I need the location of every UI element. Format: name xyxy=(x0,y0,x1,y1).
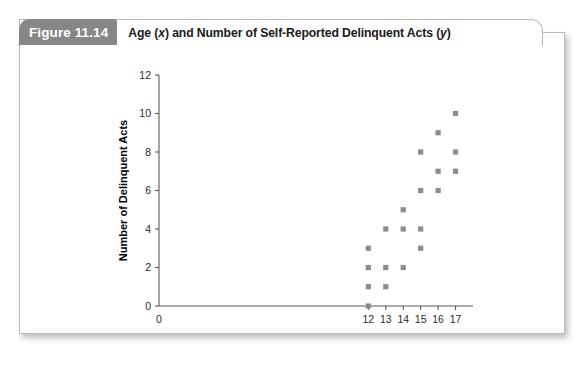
data-point xyxy=(418,226,423,231)
data-point xyxy=(453,149,458,154)
caption-var-y: y xyxy=(440,26,447,40)
y-tick-label: 10 xyxy=(139,107,151,119)
x-tick-label: 13 xyxy=(380,313,392,325)
x-tick-label: 0 xyxy=(156,313,162,325)
data-point xyxy=(436,169,441,174)
figure-number-badge: Figure 11.14 xyxy=(19,19,117,46)
data-point xyxy=(366,284,371,289)
data-point xyxy=(366,246,371,251)
data-point-group xyxy=(366,111,458,309)
x-axis: 0121314151617 Age xyxy=(156,306,473,335)
figure-caption: Age (x) and Number of Self-Reported Deli… xyxy=(117,26,451,40)
y-axis: 024681012 Number of Delinquent Acts xyxy=(117,69,159,312)
caption-prefix: Age ( xyxy=(128,26,158,40)
data-point xyxy=(401,207,406,212)
y-tick-label: 0 xyxy=(145,300,151,312)
y-tick-label: 12 xyxy=(139,69,151,81)
x-tick-label: 12 xyxy=(362,313,374,325)
y-tick-label: 8 xyxy=(145,146,151,158)
data-point xyxy=(453,169,458,174)
x-tick-label: 15 xyxy=(415,313,427,325)
data-point xyxy=(436,130,441,135)
figure-card: 024681012 Number of Delinquent Acts 0121… xyxy=(19,32,565,334)
x-tick-label: 14 xyxy=(397,313,409,325)
data-point xyxy=(366,265,371,270)
x-axis-title: Age xyxy=(289,333,310,335)
y-axis-title: Number of Delinquent Acts xyxy=(117,120,129,261)
data-point xyxy=(453,111,458,116)
data-point xyxy=(401,226,406,231)
data-point xyxy=(401,265,406,270)
data-point xyxy=(366,303,371,308)
data-point xyxy=(418,246,423,251)
caption-suffix: ) xyxy=(447,26,451,40)
data-point xyxy=(436,188,441,193)
data-point xyxy=(383,284,388,289)
data-point xyxy=(383,265,388,270)
figure-header: Figure 11.14 Age (x) and Number of Self-… xyxy=(19,19,543,46)
data-point xyxy=(383,226,388,231)
x-axis-ticks: 0121314151617 xyxy=(156,306,461,325)
y-axis-ticks: 024681012 xyxy=(139,69,159,312)
header-seam xyxy=(20,45,542,48)
caption-var-x: x xyxy=(158,26,165,40)
y-tick-label: 4 xyxy=(145,223,151,235)
x-tick-label: 17 xyxy=(450,313,462,325)
y-tick-label: 6 xyxy=(145,184,151,196)
scatter-plot: 024681012 Number of Delinquent Acts 0121… xyxy=(20,33,566,335)
plot-svg: 024681012 Number of Delinquent Acts 0121… xyxy=(20,33,566,335)
caption-middle: ) and Number of Self-Reported Delinquent… xyxy=(165,26,440,40)
data-point xyxy=(418,149,423,154)
data-point xyxy=(418,188,423,193)
y-tick-label: 2 xyxy=(145,261,151,273)
x-tick-label: 16 xyxy=(432,313,444,325)
